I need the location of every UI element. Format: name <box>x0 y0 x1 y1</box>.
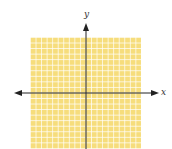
axes <box>0 0 172 149</box>
x-axis-right-arrow-icon <box>151 90 159 96</box>
x-axis-label: x <box>161 87 166 97</box>
y-axis-label: y <box>84 9 89 19</box>
y-axis-up-arrow-icon <box>83 23 89 31</box>
x-axis-left-arrow-icon <box>14 90 22 96</box>
